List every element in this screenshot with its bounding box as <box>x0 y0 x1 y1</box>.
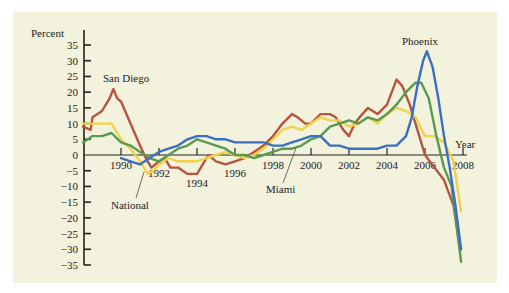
x-tick-label: 2002 <box>338 159 360 171</box>
y-tick-label: 20 <box>67 86 79 98</box>
label-san-diego: San Diego <box>103 72 150 84</box>
y-tick-label: −35 <box>61 259 79 271</box>
y-tick-label: −30 <box>61 243 79 255</box>
x-tick-label: 1994 <box>186 177 209 189</box>
y-tick-label: 5 <box>73 133 79 145</box>
label-national: National <box>111 199 149 211</box>
y-tick-label: 25 <box>67 70 79 82</box>
y-tick-label: 35 <box>67 39 79 51</box>
y-tick-label: −5 <box>66 165 78 177</box>
national-leader-line <box>136 172 144 198</box>
miami-leader-line <box>283 148 296 183</box>
y-tick-label: −20 <box>61 212 79 224</box>
series-phoenix <box>121 51 461 249</box>
line-chart: 35302520151050−5−10−15−20−25−30−35199019… <box>0 0 509 293</box>
x-tick-label: 1996 <box>224 167 247 179</box>
annotations: Percent Year San Diego Phoenix National … <box>31 27 476 211</box>
y-axis-title: Percent <box>31 27 64 39</box>
label-phoenix: Phoenix <box>402 35 439 47</box>
label-miami: Miami <box>266 183 295 195</box>
x-tick-label: 1998 <box>262 159 285 171</box>
y-tick-label: 30 <box>67 55 79 67</box>
axes: 35302520151050−5−10−15−20−25−30−35199019… <box>61 30 475 271</box>
y-tick-label: −15 <box>61 196 79 208</box>
y-tick-label: 10 <box>67 118 79 130</box>
x-tick-label: 2004 <box>376 159 399 171</box>
y-tick-label: 15 <box>67 102 79 114</box>
x-axis-title: Year <box>455 138 476 150</box>
y-tick-label: 0 <box>73 149 79 161</box>
y-tick-label: −25 <box>61 228 79 240</box>
x-tick-label: 2000 <box>300 159 323 171</box>
y-tick-label: −10 <box>61 180 79 192</box>
